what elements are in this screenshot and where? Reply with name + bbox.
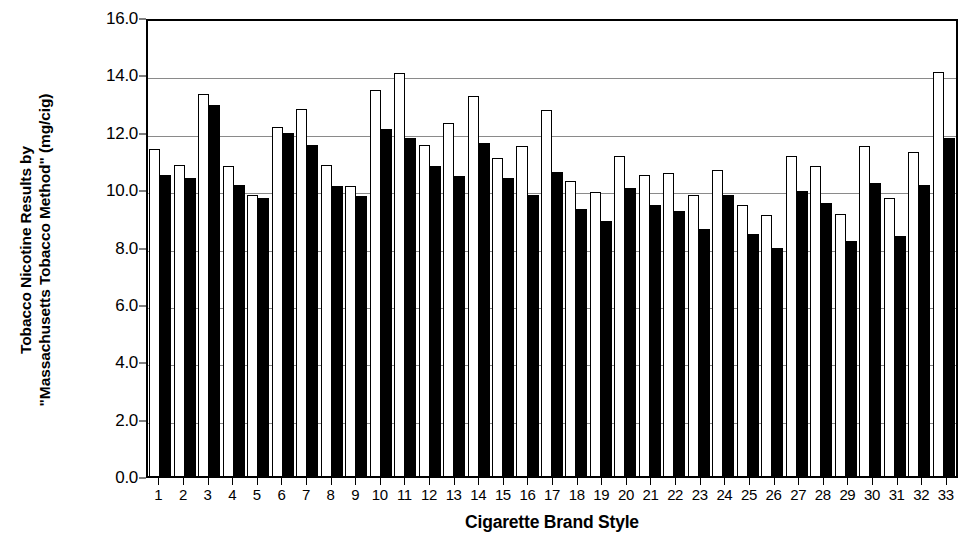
bar-group: [344, 21, 368, 476]
y-axis-title: Tobacco Nicotine Results by "Massachuset…: [0, 0, 72, 500]
bar-white: [884, 198, 895, 476]
y-axis-tick-mark: [139, 191, 146, 192]
x-axis-tick-mark: [761, 478, 786, 486]
bar-group: [466, 21, 490, 476]
x-axis-tick-label: 29: [835, 486, 860, 508]
bar-white: [198, 94, 209, 476]
bar-black: [699, 229, 710, 476]
y-axis-tick-label: 4.0: [76, 353, 138, 373]
x-axis-tick-mark: [294, 478, 319, 486]
bar-black: [821, 203, 832, 476]
bar-group: [172, 21, 196, 476]
x-axis-tick-label: 3: [195, 486, 220, 508]
y-axis-tick-label: 6.0: [76, 296, 138, 316]
bar-white: [247, 195, 258, 476]
y-axis-tick-mark: [139, 478, 146, 479]
bar-white: [835, 214, 846, 476]
x-axis-tick-mark: [146, 478, 171, 486]
x-axis-tick-label: 17: [540, 486, 565, 508]
x-axis-tick-label: 27: [786, 486, 811, 508]
x-axis-tick-label: 8: [318, 486, 343, 508]
y-axis-tick-mark: [139, 76, 146, 77]
x-axis-tick-label: 16: [515, 486, 540, 508]
bar-group: [295, 21, 319, 476]
bar-group: [148, 21, 172, 476]
bar-group: [858, 21, 882, 476]
bar-white: [272, 127, 283, 476]
x-axis-tick-mark: [367, 478, 392, 486]
bar-white: [639, 175, 650, 476]
x-axis-tick-mark: [269, 478, 294, 486]
bar-black: [895, 236, 906, 476]
x-axis-tick-mark: [220, 478, 245, 486]
x-axis-tick-label: 21: [638, 486, 663, 508]
bar-white: [174, 165, 185, 476]
bar-white: [908, 152, 919, 476]
x-axis-tick-label: 1: [146, 486, 171, 508]
x-axis-tick-mark: [171, 478, 196, 486]
y-axis-tick-labels: 16.014.012.010.08.06.04.02.00.0: [76, 0, 138, 549]
x-axis-tick-mark: [441, 478, 466, 486]
x-axis-tick-label: 13: [441, 486, 466, 508]
x-axis-tick-mark: [909, 478, 934, 486]
x-axis-tick-mark: [934, 478, 959, 486]
bar-group: [368, 21, 392, 476]
x-axis-tick-label: 2: [171, 486, 196, 508]
x-axis-tick-mark: [515, 478, 540, 486]
bar-white: [859, 146, 870, 476]
bar-group: [883, 21, 907, 476]
bar-black: [209, 105, 220, 477]
x-axis-tick-mark: [712, 478, 737, 486]
bar-group: [270, 21, 294, 476]
x-axis-tick-mark: [810, 478, 835, 486]
y-axis-tick-label: 16.0: [76, 9, 138, 29]
bar-white: [492, 158, 503, 476]
bar-white: [688, 195, 699, 476]
bar-black: [528, 195, 539, 476]
y-axis-title-line-1: Tobacco Nicotine Results by: [17, 146, 36, 354]
bar-group: [809, 21, 833, 476]
bar-white: [786, 156, 797, 476]
bar-black: [552, 172, 563, 476]
x-axis-tick-label: 25: [737, 486, 762, 508]
bar-black: [723, 195, 734, 476]
bar-black: [944, 138, 955, 477]
bar-group: [662, 21, 686, 476]
bar-group: [760, 21, 784, 476]
bar-white: [810, 166, 821, 476]
x-axis-tick-label: 19: [589, 486, 614, 508]
x-axis-tick-mark: [786, 478, 811, 486]
x-axis-tick-mark: [687, 478, 712, 486]
bar-white: [541, 110, 552, 476]
bar-group: [515, 21, 539, 476]
x-axis-tick-label: 31: [884, 486, 909, 508]
bar-black: [797, 191, 808, 476]
x-axis-tick-label: 12: [417, 486, 442, 508]
bar-group: [932, 21, 956, 476]
bar-white: [565, 181, 576, 476]
x-axis-tick-label: 4: [220, 486, 245, 508]
y-axis-tick-mark: [139, 363, 146, 364]
x-axis-tick-label: 20: [614, 486, 639, 508]
bar-white: [737, 205, 748, 476]
x-axis-tick-label: 11: [392, 486, 417, 508]
x-axis-tick-mark: [614, 478, 639, 486]
bar-white: [223, 166, 234, 476]
bar-white: [590, 192, 601, 476]
x-axis-tick-label: 9: [343, 486, 368, 508]
bar-black: [576, 209, 587, 476]
x-axis-tick-label: 33: [934, 486, 959, 508]
bar-black: [332, 186, 343, 476]
bar-white: [712, 170, 723, 476]
bar-black: [674, 211, 685, 476]
x-axis-tick-mark: [638, 478, 663, 486]
x-axis-tick-mark: [540, 478, 565, 486]
y-axis-tick-mark: [139, 19, 146, 20]
y-axis-tick-label: 12.0: [76, 124, 138, 144]
bar-black: [650, 205, 661, 476]
bar-black: [160, 175, 171, 476]
bar-black: [919, 185, 930, 476]
bar-white: [345, 186, 356, 476]
x-axis-tick-label: 15: [491, 486, 516, 508]
bar-group: [393, 21, 417, 476]
